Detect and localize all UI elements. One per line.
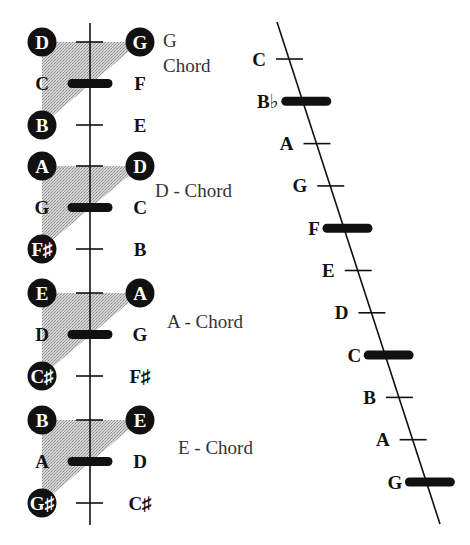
note-label-right: E [134,410,147,431]
chord-label: E - Chord [178,437,253,458]
note-label-left: F♯ [31,239,53,260]
note-label-left: A [35,156,49,177]
diagonal-note: G [292,175,344,196]
diagonal-note-label: F [308,218,320,239]
note-label-right: D [133,451,147,472]
note-label-right: G [133,324,148,345]
note-label-left: D [35,324,49,345]
note-label-right: E [134,115,147,136]
diagonal-note-label: B♭ [257,91,279,112]
diagonal-note-label: B [363,387,376,408]
diagonal-note: B♭ [257,91,327,112]
note-label-right: F♯ [129,366,151,387]
diagonal-note-label: G [388,472,403,493]
note-label-left: B [36,115,49,136]
note-label-left: G♯ [30,493,55,514]
diagonal-note: A [376,429,427,450]
right-diagonal-scale: CB♭AGFEDCBAG [252,22,450,524]
diagonal-note: D [335,302,386,323]
note-label-right: B [134,239,147,260]
chord-label: G [163,30,177,51]
chord-diagram: DGCFBEGChordADGCF♯BD - ChordEADGC♯F♯A - … [0,0,470,545]
diagonal-note: C [347,345,409,366]
note-label-left: E [36,283,49,304]
chord-label: D - Chord [155,180,233,201]
diagonal-note-label: C [347,345,361,366]
note-label-right: D [133,156,147,177]
note-label-left: D [35,32,49,53]
diagonal-note: E [322,260,372,281]
note-label-left: B [36,410,49,431]
diagonal-note: C [252,49,303,70]
diagonal-note-label: E [322,260,335,281]
diagonal-note: A [280,133,331,154]
note-label-left: G [35,197,50,218]
note-label-left: C♯ [30,366,54,387]
diagonal-note: G [388,472,451,493]
diagonal-note: F [308,218,368,239]
note-label-right: G [133,32,148,53]
note-label-right: C♯ [128,493,152,514]
note-label-left: A [35,451,49,472]
note-label-right: A [133,283,147,304]
note-label-right: C [133,197,147,218]
note-row: BE [28,111,147,140]
chord-label: A - Chord [167,311,244,332]
diagonal-note: B [363,387,413,408]
diagonal-note-label: G [292,175,307,196]
diagonal-note-label: D [335,302,349,323]
diagonal-note-label: A [376,429,390,450]
note-label-right: F [134,73,146,94]
diagonal-note-label: A [280,133,294,154]
chord-label: Chord [163,55,211,76]
note-row: F♯B [28,235,147,264]
left-chord-column: DGCFBEGChordADGCF♯BD - ChordEADGC♯F♯A - … [28,23,254,525]
note-label-left: C [35,73,49,94]
diagonal-note-label: C [252,49,266,70]
